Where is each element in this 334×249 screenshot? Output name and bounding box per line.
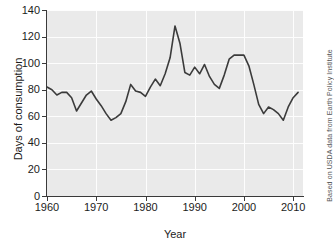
y-tick-mark-20 [42, 169, 46, 170]
x-tick-label-2000: 2000 [224, 202, 264, 213]
y-tick-mark-0 [42, 196, 46, 197]
y-tick-mark-120 [42, 37, 46, 38]
y-tick-mark-100 [42, 63, 46, 64]
line-series-days-of-consumption [47, 10, 303, 196]
y-tick-mark-140 [42, 10, 46, 11]
y-tick-label-140: 140 [0, 5, 40, 16]
source-attribution-text: Based on USDA data from Earth Policy Ins… [326, 33, 333, 219]
x-tick-label-1980: 1980 [126, 202, 166, 213]
plot-area [47, 10, 303, 196]
x-tick-label-1970: 1970 [76, 202, 116, 213]
y-tick-mark-40 [42, 143, 46, 144]
x-tick-label-2010: 2010 [273, 202, 313, 213]
y-tick-mark-80 [42, 90, 46, 91]
y-tick-label-0: 0 [0, 191, 40, 202]
x-axis-title: Year [47, 228, 303, 240]
x-axis-line [46, 196, 304, 197]
y-tick-mark-60 [42, 116, 46, 117]
chart-figure: 020406080100120140 196019701980199020002… [0, 0, 334, 249]
x-tick-label-1960: 1960 [27, 202, 67, 213]
y-axis-title: Days of consumption [12, 29, 24, 189]
y-axis-line [46, 10, 47, 197]
x-tick-label-1990: 1990 [175, 202, 215, 213]
